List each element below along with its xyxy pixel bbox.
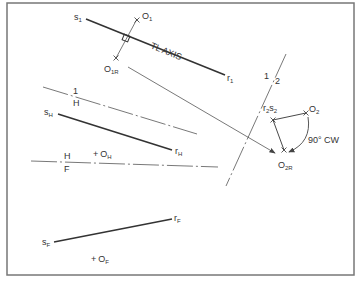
figure-frame <box>7 3 354 275</box>
projection-arrow <box>128 67 275 153</box>
label-sH: sH <box>44 107 53 118</box>
fold-line-H-F: H F <box>31 151 218 174</box>
line-sH-rH: sH rH <box>44 107 182 157</box>
point-OH: +OH <box>93 149 112 160</box>
fold-label-2: 2 <box>275 76 280 86</box>
descriptive-geometry-diagram: s1 r1 TL AXIS O1 O1R 1 H sH rH +OH H F <box>0 0 358 281</box>
label-r2s2: r2s2 <box>263 103 278 114</box>
rotation-construction-view2: r2s2 O2 O2R 90° CW <box>263 103 340 171</box>
x-marker-O1 <box>135 18 140 23</box>
line-s1-r1: s1 r1 TL AXIS <box>74 12 234 84</box>
label-rF: rF <box>174 213 181 224</box>
fold-label-H2: H <box>64 151 71 161</box>
point-OF: +OF <box>91 254 109 265</box>
line-sF-rF: sF rF <box>42 213 181 248</box>
fold-line-1-H: 1 H <box>43 86 197 134</box>
axis-point-square <box>122 34 130 42</box>
label-sF: sF <box>42 237 51 248</box>
label-O1: O1 <box>142 11 153 22</box>
label-rH: rH <box>175 146 182 157</box>
fold-label-1b: 1 <box>264 71 269 81</box>
x-marker-O2R <box>282 148 287 153</box>
fold-line-1-2: 1 2 <box>226 54 286 186</box>
x-marker-O1R <box>114 56 119 61</box>
label-O1R: O1R <box>104 64 119 75</box>
label-O2: O2 <box>309 104 320 115</box>
label-r1: r1 <box>227 73 234 84</box>
label-90-cw: 90° CW <box>308 135 340 145</box>
fold-label-H: H <box>73 98 80 108</box>
fold-label-F: F <box>64 164 70 174</box>
label-O2R: O2R <box>278 160 293 171</box>
label-tl-axis: TL AXIS <box>149 41 183 63</box>
label-s1: s1 <box>74 12 83 23</box>
rotation-arc-arrow <box>289 117 309 152</box>
fold-label-1: 1 <box>73 86 78 96</box>
